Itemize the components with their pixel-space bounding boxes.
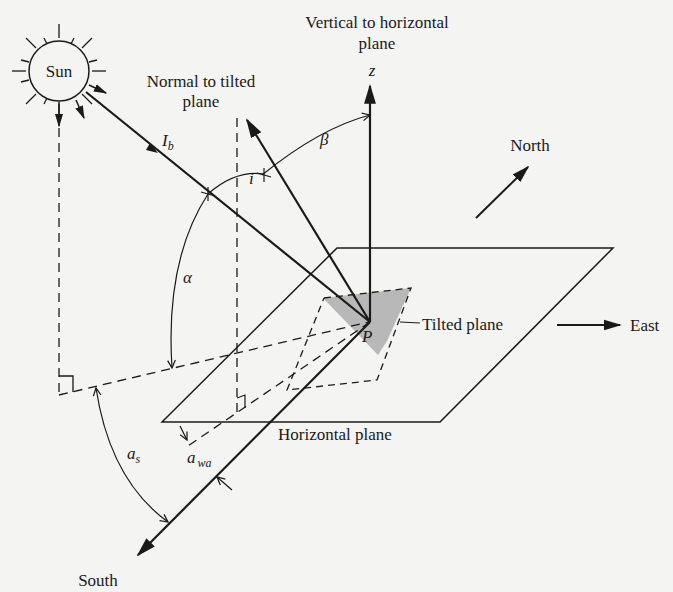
solar-geometry-diagram: Sun Vertical to horizontal plane z Norma…	[0, 0, 673, 592]
azimuth-wall-label: awa	[187, 448, 212, 470]
tilted-plane-label: Tilted plane	[422, 315, 503, 334]
azimuth-sun-label: as	[127, 444, 141, 466]
z-label: z	[368, 61, 376, 80]
normal-label: Normal to tilted	[147, 72, 256, 91]
south-label: South	[78, 571, 118, 590]
normal-axis	[247, 120, 370, 322]
beam-label-sub: b	[168, 139, 174, 153]
vertical-label-line2: plane	[359, 34, 396, 53]
beam-ray	[86, 92, 370, 322]
azimuth-sun-sub: s	[136, 452, 141, 466]
incidence-label: i	[249, 169, 254, 188]
point-p-label: P	[361, 327, 372, 346]
sun-label: Sun	[46, 62, 73, 81]
east-label: East	[630, 316, 660, 335]
north-label: North	[510, 136, 550, 155]
beta-label: β	[319, 130, 329, 149]
azimuth-sun-main: a	[127, 444, 136, 463]
vertical-label: Vertical to horizontal	[305, 13, 449, 32]
north-arrow	[476, 167, 528, 218]
normal-vertical-dashed	[237, 118, 245, 412]
arc-intersections	[201, 168, 271, 201]
horizontal-plane-label: Horizontal plane	[278, 425, 392, 444]
diagram-svg: Sun Vertical to horizontal plane z Norma…	[0, 0, 673, 592]
normal-label-line2: plane	[183, 92, 220, 111]
alpha-label: α	[183, 268, 193, 287]
azimuth-wall-sub: wa	[198, 456, 212, 470]
azimuth-wall-main: a	[187, 448, 196, 467]
beam-label: Ib	[161, 131, 174, 153]
